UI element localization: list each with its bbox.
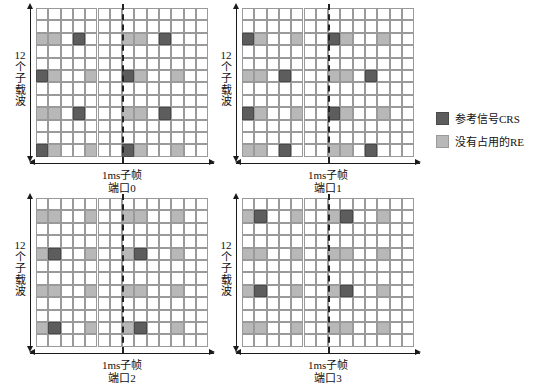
grid-cell-empty: [147, 248, 159, 260]
legend-swatch-free-icon: [436, 135, 449, 148]
grid-cell-empty: [279, 33, 291, 45]
grid-cell-empty: [184, 45, 196, 57]
grid-cell-empty: [316, 248, 328, 260]
y-axis-line: [236, 198, 237, 347]
grid-cell-empty: [291, 82, 303, 94]
grid-cell-empty: [390, 132, 402, 144]
grid-cell-free: [85, 322, 97, 334]
grid-cell-free: [340, 33, 352, 45]
grid-cell-empty: [304, 272, 316, 284]
grid-cell-empty: [36, 120, 48, 132]
grid-cell-empty: [184, 107, 196, 119]
grid-cell-empty: [402, 235, 414, 247]
grid-cell-empty: [98, 45, 110, 57]
legend-label-crs: 参考信号CRS: [455, 110, 520, 126]
grid-cell-crs: [134, 248, 146, 260]
grid-cell-empty: [267, 310, 279, 322]
grid-cell-empty: [254, 58, 266, 70]
grid-cell-empty: [110, 107, 122, 119]
grid-cell-empty: [110, 210, 122, 222]
grid-cell-free: [291, 285, 303, 297]
grid-cell-empty: [316, 334, 328, 346]
grid-cell-empty: [402, 210, 414, 222]
grid-cell-empty: [73, 210, 85, 222]
grid-cell-empty: [291, 297, 303, 309]
grid-cell-empty: [159, 132, 171, 144]
grid-cell-empty: [353, 82, 365, 94]
grid-cell-empty: [184, 334, 196, 346]
grid-cell-empty: [73, 20, 85, 32]
grid-cell-empty: [242, 58, 254, 70]
grid-cell-empty: [147, 95, 159, 107]
grid-cell-empty: [36, 82, 48, 94]
grid-cell-free: [36, 210, 48, 222]
grid-cell-empty: [377, 198, 389, 210]
grid-cell-empty: [390, 235, 402, 247]
legend-label-free: 没有占用的RE: [455, 133, 524, 149]
grid-cell-empty: [353, 235, 365, 247]
grid-cell-empty: [390, 120, 402, 132]
grid-cell-empty: [390, 58, 402, 70]
grid-cell-empty: [340, 235, 352, 247]
grid-cell-empty: [304, 132, 316, 144]
grid-cell-crs: [73, 33, 85, 45]
grid-cell-empty: [304, 310, 316, 322]
grid-cell-crs: [36, 144, 48, 156]
grid-cell-free: [242, 144, 254, 156]
grid-cell-empty: [267, 272, 279, 284]
grid-cell-empty: [242, 310, 254, 322]
grid-cell-empty: [98, 120, 110, 132]
grid-cell-empty: [304, 120, 316, 132]
grid-cell-empty: [98, 82, 110, 94]
grid-cell-free: [36, 248, 48, 260]
grid-cell-empty: [390, 297, 402, 309]
grid-cell-empty: [73, 334, 85, 346]
grid-cell-empty: [61, 223, 73, 235]
grid-cell-empty: [196, 272, 208, 284]
grid-cell-empty: [110, 70, 122, 82]
grid-cell-empty: [147, 45, 159, 57]
grid-cell-empty: [353, 95, 365, 107]
resource-grid: [36, 8, 208, 157]
grid-cell-empty: [304, 248, 316, 260]
grid-cell-empty: [340, 8, 352, 20]
grid-cell-empty: [365, 20, 377, 32]
grid-cell-free: [242, 210, 254, 222]
grid-cell-empty: [159, 260, 171, 272]
grid-cell-empty: [196, 120, 208, 132]
grid-cell-empty: [377, 223, 389, 235]
grid-cell-empty: [73, 322, 85, 334]
x-axis-arrow-right-icon: [415, 349, 421, 355]
grid-cell-empty: [304, 70, 316, 82]
grid-cell-empty: [316, 132, 328, 144]
grid-cell-empty: [242, 272, 254, 284]
grid-cell-empty: [402, 95, 414, 107]
grid-cell-empty: [402, 322, 414, 334]
grid-cell-free: [254, 322, 266, 334]
grid-cell-empty: [73, 120, 85, 132]
resource-grid: [242, 8, 414, 157]
grid-cell-empty: [73, 198, 85, 210]
grid-cell-empty: [159, 210, 171, 222]
x-axis-arrow-left-icon: [29, 159, 35, 165]
grid-cell-empty: [184, 20, 196, 32]
grid-cell-empty: [254, 235, 266, 247]
x-axis-line: [236, 163, 420, 164]
grid-cell-empty: [48, 120, 60, 132]
grid-cell-empty: [365, 198, 377, 210]
grid-cell-empty: [196, 285, 208, 297]
grid-cell-empty: [171, 198, 183, 210]
grid-cell-free: [171, 285, 183, 297]
grid-cell-empty: [184, 322, 196, 334]
grid-cell-empty: [147, 285, 159, 297]
grid-cell-empty: [377, 20, 389, 32]
grid-cell-empty: [36, 310, 48, 322]
grid-cell-empty: [254, 120, 266, 132]
grid-cell-empty: [267, 45, 279, 57]
grid-cell-empty: [316, 33, 328, 45]
grid-cell-free: [377, 33, 389, 45]
grid-cell-empty: [267, 285, 279, 297]
grid-cell-empty: [402, 58, 414, 70]
grid-cell-free: [340, 107, 352, 119]
grid-cell-empty: [196, 107, 208, 119]
